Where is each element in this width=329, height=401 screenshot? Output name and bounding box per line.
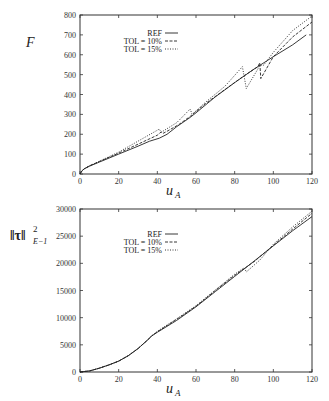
y-tick-label: 30000: [56, 205, 76, 214]
x-tick-label: 20: [115, 375, 123, 384]
series-line-2: [80, 211, 312, 372]
svg-text:u: u: [166, 381, 173, 396]
x-tick-label: 20: [115, 177, 123, 186]
x-tick-label: 80: [231, 375, 239, 384]
y-tick-label: 700: [64, 31, 76, 40]
svg-text:‖τ‖: ‖τ‖: [10, 228, 26, 243]
x-tick-label: 80: [231, 177, 239, 186]
x-tick-label: 120: [306, 375, 318, 384]
legend-label: TOL = 15%: [124, 45, 163, 54]
plot-frame: [80, 15, 312, 174]
svg-text:A: A: [174, 388, 181, 398]
y-tick-label: 500: [64, 71, 76, 80]
svg-text:2: 2: [33, 224, 38, 234]
y-tick-label: 0: [72, 170, 76, 179]
x-tick-label: 0: [78, 177, 82, 186]
y-tick-label: 300: [64, 110, 76, 119]
plot2-y-axis-label: ‖τ‖ 2 E−1: [10, 224, 47, 246]
y-tick-label: 200: [64, 130, 76, 139]
plot1-y-axis-label: F: [25, 35, 35, 50]
y-tick-label: 800: [64, 11, 76, 20]
y-tick-label: 600: [64, 51, 76, 60]
y-tick-label: 25000: [56, 232, 76, 241]
x-tick-label: 40: [153, 177, 161, 186]
series-line-1: [80, 22, 312, 174]
svg-text:u: u: [166, 183, 173, 198]
x-tick-label: 60: [192, 177, 200, 186]
plot-frame: [80, 209, 312, 372]
plot1-x-axis-label: u A: [166, 183, 181, 200]
svg-text:A: A: [174, 190, 181, 200]
plot2-x-axis-label: u A: [166, 381, 181, 398]
figure: 0204060801001200100200300400500600700800…: [0, 0, 329, 401]
x-tick-label: 40: [153, 375, 161, 384]
y-tick-label: 5000: [60, 341, 76, 350]
legend-label: TOL = 15%: [124, 246, 163, 255]
y-tick-label: 0: [72, 368, 76, 377]
y-tick-label: 10000: [56, 314, 76, 323]
series-line-2: [80, 16, 312, 174]
legend: REFTOL = 10%TOL = 15%: [124, 29, 178, 54]
x-tick-label: 60: [192, 375, 200, 384]
series-line-0: [80, 217, 312, 372]
x-tick-label: 100: [267, 375, 279, 384]
y-tick-label: 400: [64, 91, 76, 100]
legend: REFTOL = 10%TOL = 15%: [124, 230, 178, 255]
x-tick-label: 100: [267, 177, 279, 186]
error-norm-chart: 0204060801001200500010000150002000025000…: [56, 205, 318, 384]
y-tick-label: 100: [64, 150, 76, 159]
series-line-1: [80, 213, 312, 372]
y-tick-label: 15000: [56, 287, 76, 296]
x-tick-label: 0: [78, 375, 82, 384]
series-line-0: [80, 35, 306, 174]
svg-text:E−1: E−1: [32, 237, 47, 246]
x-tick-label: 120: [306, 177, 318, 186]
y-tick-label: 20000: [56, 259, 76, 268]
force-displacement-chart: 0204060801001200100200300400500600700800…: [64, 11, 318, 186]
